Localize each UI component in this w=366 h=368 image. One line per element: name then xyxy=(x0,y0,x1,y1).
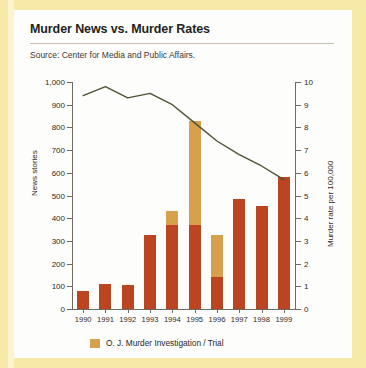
x-tick-label-1993: 1993 xyxy=(142,315,159,324)
left-tick-mark xyxy=(67,150,72,151)
left-tick-label: 800 xyxy=(25,123,65,132)
x-tick-mark xyxy=(105,310,106,313)
x-tick-mark xyxy=(262,310,263,313)
bar-1994 xyxy=(166,211,178,309)
left-tick-mark xyxy=(67,196,72,197)
bar-segment-news-1998 xyxy=(256,206,268,309)
right-tick-label: 0 xyxy=(304,305,308,314)
x-tick-mark xyxy=(172,310,173,313)
x-tick-label-1990: 1990 xyxy=(75,315,92,324)
bar-1995 xyxy=(189,121,201,309)
left-tick-label: 0 xyxy=(25,305,65,314)
left-tick-label: 400 xyxy=(25,214,65,223)
bar-1996 xyxy=(211,235,223,309)
left-tick-label: 100 xyxy=(25,282,65,291)
right-tick-mark xyxy=(296,196,301,197)
left-tick-mark xyxy=(67,82,72,83)
bar-segment-oj-1994 xyxy=(166,211,178,225)
right-tick-label: 1 xyxy=(304,282,308,291)
left-tick-mark xyxy=(67,241,72,242)
x-tick-label-1994: 1994 xyxy=(164,315,181,324)
bar-1998 xyxy=(256,206,268,309)
right-tick-label: 2 xyxy=(304,259,308,268)
right-axis-title: Murder rate per 100,000 xyxy=(326,161,335,247)
left-tick-label: 900 xyxy=(25,100,65,109)
x-tick-mark xyxy=(83,310,84,313)
right-tick-label: 6 xyxy=(304,168,308,177)
left-axis-title: News stories xyxy=(30,150,39,196)
bar-segment-news-1990 xyxy=(77,291,89,309)
bar-1991 xyxy=(99,284,111,309)
right-tick-mark xyxy=(296,309,301,310)
left-axis-line xyxy=(72,82,73,310)
plot-area: 01002003004005006007008009001,000 012345… xyxy=(14,10,352,358)
bar-segment-oj-1995 xyxy=(189,121,201,225)
x-tick-label-1995: 1995 xyxy=(186,315,203,324)
right-tick-mark xyxy=(296,105,301,106)
right-tick-label: 10 xyxy=(304,78,313,87)
left-tick-label: 200 xyxy=(25,259,65,268)
right-tick-mark xyxy=(296,264,301,265)
x-tick-label-1991: 1991 xyxy=(97,315,114,324)
legend-label-oj: O. J. Murder Investigation / Trial xyxy=(106,338,224,348)
right-tick-label: 8 xyxy=(304,123,308,132)
legend-swatch-oj xyxy=(90,339,100,348)
left-tick-label: 300 xyxy=(25,236,65,245)
bar-1990 xyxy=(77,291,89,309)
right-tick-label: 3 xyxy=(304,236,308,245)
bar-segment-news-1996 xyxy=(211,277,223,309)
left-tick-label: 1,000 xyxy=(25,78,65,87)
right-tick-label: 9 xyxy=(304,100,308,109)
x-tick-label-1998: 1998 xyxy=(253,315,270,324)
bar-1992 xyxy=(122,285,134,309)
left-tick-mark xyxy=(67,173,72,174)
bar-segment-news-1993 xyxy=(144,235,156,309)
right-tick-mark xyxy=(296,150,301,151)
bar-segment-news-1997 xyxy=(233,199,245,309)
x-tick-label-1999: 1999 xyxy=(275,315,292,324)
left-tick-mark xyxy=(67,264,72,265)
right-tick-mark xyxy=(296,82,301,83)
right-tick-mark xyxy=(296,173,301,174)
right-tick-mark xyxy=(296,218,301,219)
bar-segment-news-1994 xyxy=(166,225,178,309)
right-tick-mark xyxy=(296,286,301,287)
bar-1993 xyxy=(144,235,156,309)
left-tick-mark xyxy=(67,309,72,310)
left-tick-mark xyxy=(67,286,72,287)
x-tick-mark xyxy=(195,310,196,313)
bar-1997 xyxy=(233,199,245,309)
x-tick-mark xyxy=(128,310,129,313)
chart-legend: O. J. Murder Investigation / Trial xyxy=(90,338,224,348)
x-tick-mark xyxy=(150,310,151,313)
left-tick-mark xyxy=(67,127,72,128)
page-background: Murder News vs. Murder Rates Source: Cen… xyxy=(0,0,366,368)
x-tick-mark xyxy=(217,310,218,313)
x-tick-label-1997: 1997 xyxy=(231,315,248,324)
chart-card: Murder News vs. Murder Rates Source: Cen… xyxy=(14,10,352,358)
bar-segment-news-1999 xyxy=(278,177,290,309)
right-tick-mark xyxy=(296,127,301,128)
x-tick-label-1992: 1992 xyxy=(119,315,136,324)
bar-segment-news-1995 xyxy=(189,225,201,309)
x-tick-mark xyxy=(239,310,240,313)
x-tick-mark xyxy=(284,310,285,313)
bar-segment-news-1992 xyxy=(122,285,134,309)
right-tick-label: 7 xyxy=(304,146,308,155)
left-tick-mark xyxy=(67,105,72,106)
bar-segment-oj-1996 xyxy=(211,235,223,277)
right-tick-label: 5 xyxy=(304,191,308,200)
x-tick-label-1996: 1996 xyxy=(208,315,225,324)
right-tick-mark xyxy=(296,241,301,242)
left-tick-mark xyxy=(67,218,72,219)
right-tick-label: 4 xyxy=(304,214,308,223)
bar-1999 xyxy=(278,177,290,309)
bar-segment-news-1991 xyxy=(99,284,111,309)
